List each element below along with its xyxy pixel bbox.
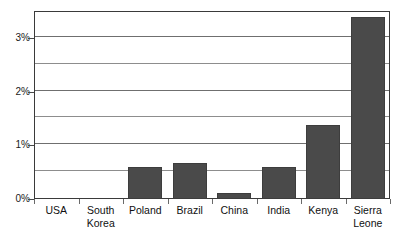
y-tick-mark [28,92,34,93]
gridline [35,143,389,144]
x-axis-label: Sierra Leone [346,204,391,230]
x-axis-label: South Korea [79,204,124,230]
x-axis-labels: USASouth KoreaPolandBrazilChinaIndiaKeny… [34,204,390,230]
y-tick-label: 3% [4,33,30,43]
gridline [35,90,389,91]
y-axis: 3%2%1%0% [0,11,30,199]
x-axis-label: China [212,204,257,230]
plot-area [34,11,390,199]
x-axis-label: USA [34,204,79,230]
y-tick-label: 2% [4,87,30,97]
x-tick-mark [390,199,391,204]
x-axis-label: Kenya [301,204,346,230]
x-axis-label: India [257,204,302,230]
gridline [35,63,389,64]
x-axis-label: Brazil [168,204,213,230]
y-tick-mark [28,38,34,39]
gridline [35,170,389,171]
y-tick-label: 0% [4,194,30,204]
gridline [35,36,389,37]
gridline [35,116,389,117]
x-axis-label: Poland [123,204,168,230]
y-tick-mark [28,145,34,146]
bar-chart: 3%2%1%0% USASouth KoreaPolandBrazilChina… [0,0,407,245]
y-tick-label: 1% [4,140,30,150]
